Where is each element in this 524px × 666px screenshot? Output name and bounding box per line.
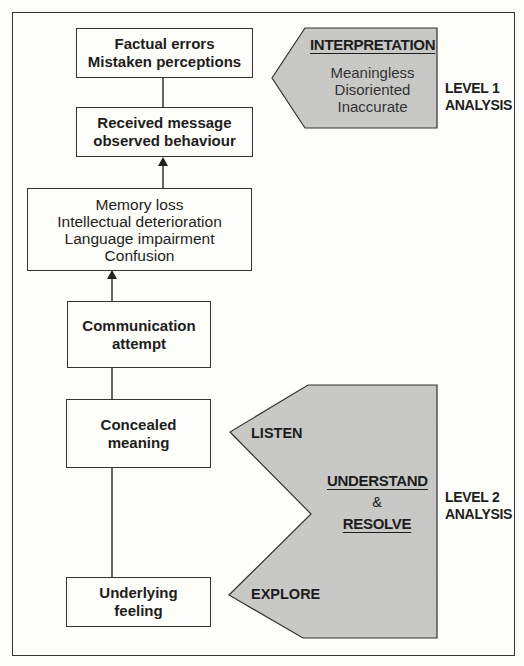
interpretation-heading: INTERPRETATION bbox=[310, 36, 435, 53]
box-received-message: Received message observed behaviour bbox=[76, 107, 253, 157]
interpretation-item: Meaningless bbox=[310, 64, 435, 81]
resolve-label: RESOLVE bbox=[327, 515, 427, 532]
box-text: Memory loss bbox=[96, 196, 184, 213]
box-underlying-feeling: Underlying feeling bbox=[66, 577, 211, 627]
box-text: Concealed bbox=[101, 416, 177, 434]
box-text: Factual errors bbox=[114, 35, 214, 53]
interpretation-item: Inaccurate bbox=[310, 98, 435, 115]
box-text: Intellectual deterioration bbox=[57, 213, 222, 230]
box-concealed-meaning: Concealed meaning bbox=[66, 399, 211, 468]
box-factual-errors: Factual errors Mistaken perceptions bbox=[76, 28, 253, 78]
arrow-up-icon bbox=[158, 157, 168, 166]
box-text: Communication bbox=[82, 317, 195, 335]
interpretation-item: Disoriented bbox=[310, 81, 435, 98]
level-2-label: LEVEL 2 ANALYSIS bbox=[445, 489, 512, 523]
box-text: Mistaken perceptions bbox=[88, 53, 241, 71]
level-label-line: ANALYSIS bbox=[445, 97, 512, 114]
arrow-up-icon bbox=[107, 270, 117, 279]
box-text: Confusion bbox=[105, 247, 175, 264]
box-text: Language impairment bbox=[65, 230, 215, 247]
understand-label: UNDERSTAND bbox=[327, 472, 427, 489]
listen-label: LISTEN bbox=[251, 425, 303, 441]
interpretation-items: Meaningless Disoriented Inaccurate bbox=[310, 64, 435, 115]
level-label-line: ANALYSIS bbox=[445, 506, 512, 523]
box-text: Received message bbox=[97, 114, 231, 132]
level-label-line: LEVEL 2 bbox=[445, 489, 512, 506]
ampersand-label: & bbox=[327, 494, 427, 510]
explore-label: EXPLORE bbox=[251, 586, 320, 602]
box-communication-attempt: Communication attempt bbox=[67, 301, 211, 368]
box-memory-loss: Memory loss Intellectual deterioration L… bbox=[27, 188, 252, 271]
box-text: feeling bbox=[114, 602, 162, 620]
level-label-line: LEVEL 1 bbox=[445, 80, 512, 97]
box-text: observed behaviour bbox=[93, 132, 236, 150]
box-text: meaning bbox=[108, 434, 170, 452]
box-text: attempt bbox=[112, 335, 166, 353]
level-1-label: LEVEL 1 ANALYSIS bbox=[445, 80, 512, 114]
box-text: Underlying bbox=[99, 584, 177, 602]
